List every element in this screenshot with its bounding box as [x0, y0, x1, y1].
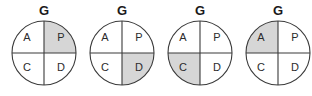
quadrant-label-top-right-3: P — [213, 31, 220, 43]
quadrant-label-bottom-right-2: D — [135, 61, 143, 73]
quadrant-label-bottom-left-3: C — [179, 61, 187, 73]
quadrant-label-bottom-right-4: D — [291, 61, 299, 73]
quadrant-label-top-left-3: A — [179, 31, 187, 43]
diagram-root: G A P C D G A P C D — [0, 0, 312, 96]
quadrant-circle-series: G A P C D G A P C D — [0, 0, 312, 96]
circle-top-label-2: G — [117, 3, 127, 18]
quadrant-label-bottom-right-3: D — [213, 61, 221, 73]
quadrant-label-top-left-4: A — [257, 31, 265, 43]
quadrant-label-bottom-right-1: D — [57, 61, 65, 73]
circle-top-label-3: G — [195, 3, 205, 18]
quadrant-label-top-left-1: A — [23, 31, 31, 43]
quadrant-label-top-left-2: A — [101, 31, 109, 43]
quadrant-label-bottom-left-4: C — [257, 61, 265, 73]
circle-top-label-4: G — [273, 3, 283, 18]
circle-top-label-1: G — [39, 3, 49, 18]
quadrant-circle-figure-4: G A P C D — [234, 0, 312, 96]
quadrant-label-bottom-left-1: C — [23, 61, 31, 73]
quadrant-circle-figure-2: G A P C D — [78, 0, 156, 96]
quadrant-circle-figure-1: G A P C D — [0, 0, 78, 96]
quadrant-label-top-right-1: P — [57, 31, 64, 43]
quadrant-label-bottom-left-2: C — [101, 61, 109, 73]
quadrant-label-top-right-4: P — [291, 31, 298, 43]
quadrant-label-top-right-2: P — [135, 31, 142, 43]
quadrant-circle-figure-3: G A P C D — [156, 0, 234, 96]
